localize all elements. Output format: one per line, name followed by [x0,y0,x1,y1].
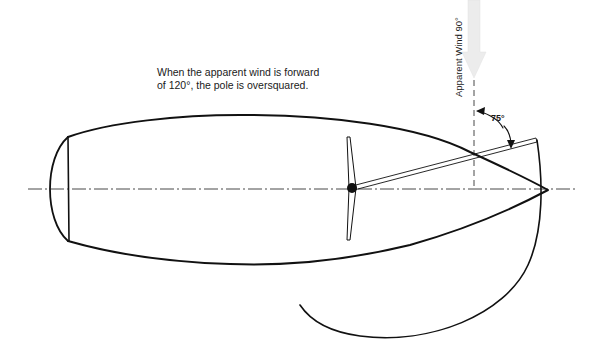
sailing-diagram: Apparent Wind 90° 75° [0,0,597,348]
spinnaker-pole [352,138,537,190]
mast-dot [347,183,357,193]
wind-label: Apparent Wind 90° [453,17,464,97]
caption-line-2: of 120°, the pole is oversquared. [157,79,308,91]
angle-label: 75° [491,113,505,123]
apparent-wind-arrow-icon [462,0,486,78]
hull-transom [68,137,69,241]
caption: When the apparent wind is forward of 120… [157,66,319,92]
caption-line-1: When the apparent wind is forward [157,66,319,78]
hull-outline [68,115,548,264]
spinnaker-sheet-arc [300,140,541,338]
